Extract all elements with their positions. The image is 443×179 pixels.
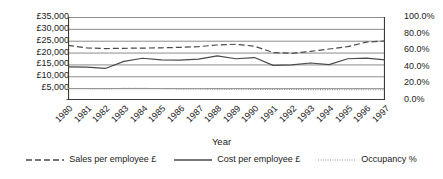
- x-axis-tick-label: 1981: [73, 104, 94, 125]
- plot-svg: [68, 17, 385, 100]
- right-axis-tick-label: 80.0%: [404, 29, 430, 38]
- legend-item[interactable]: Occupancy %: [318, 155, 417, 164]
- left-axis-tick-label: £35,000: [36, 12, 69, 21]
- right-axis-tick-label: 0.0%: [404, 95, 425, 104]
- x-axis-tick-label: 1995: [334, 104, 355, 125]
- legend-item[interactable]: Cost per employee £: [174, 155, 300, 164]
- right-axis-tick-label: 60.0%: [404, 45, 430, 54]
- legend-swatch-dashed-icon: [26, 156, 64, 164]
- x-axis-tick-label: 1986: [166, 104, 187, 125]
- chart-legend: Sales per employee £Cost per employee £O…: [0, 155, 443, 164]
- left-axis-tick-label: £25,000: [36, 36, 69, 45]
- x-axis-tick-label: 1983: [110, 104, 131, 125]
- legend-label: Cost per employee £: [217, 155, 300, 164]
- legend-label: Sales per employee £: [69, 155, 156, 164]
- x-axis-tick-label: 1994: [315, 104, 336, 125]
- x-axis-tick-label: 1988: [203, 104, 224, 125]
- x-axis-tick-label: 1996: [352, 104, 373, 125]
- series-line-0: [68, 41, 385, 53]
- x-axis-tick-label: 1991: [259, 104, 280, 125]
- x-axis-tick-label: 1985: [147, 104, 168, 125]
- left-axis-tick-label: £10,000: [36, 71, 69, 80]
- x-axis-title: Year: [0, 136, 443, 147]
- plot-area: [68, 17, 385, 100]
- right-axis-tick-label: 20.0%: [404, 78, 430, 87]
- x-axis-tick-label: 1990: [240, 104, 261, 125]
- legend-label: Occupancy %: [361, 155, 417, 164]
- left-axis-tick-label: £20,000: [36, 48, 69, 57]
- x-axis-tick-label: 1984: [128, 104, 149, 125]
- x-axis-tick-label: 1993: [296, 104, 317, 125]
- line-chart: -£5,000£10,000£15,000£20,000£25,000£30,0…: [0, 0, 443, 179]
- right-axis-tick-label: 100.0%: [404, 12, 435, 21]
- left-axis-tick-label: £15,000: [36, 59, 69, 68]
- x-axis-tick-label: 1989: [222, 104, 243, 125]
- x-axis-tick-label: 1992: [278, 104, 299, 125]
- category-axis: 1980198119821983198419851986198719881989…: [68, 101, 385, 141]
- x-axis-tick-label: 1987: [184, 104, 205, 125]
- legend-swatch-dotted-icon: [318, 156, 356, 164]
- left-axis-tick-label: £30,000: [36, 24, 69, 33]
- legend-swatch-solid-icon: [174, 156, 212, 164]
- x-axis-tick-label: 1997: [371, 104, 392, 125]
- series-line-1: [68, 56, 385, 69]
- x-axis-tick-label: 1980: [54, 104, 75, 125]
- left-axis-tick-label: £5,000: [41, 83, 69, 92]
- x-axis-tick-label: 1982: [91, 104, 112, 125]
- right-axis-tick-label: 40.0%: [404, 62, 430, 71]
- legend-item[interactable]: Sales per employee £: [26, 155, 156, 164]
